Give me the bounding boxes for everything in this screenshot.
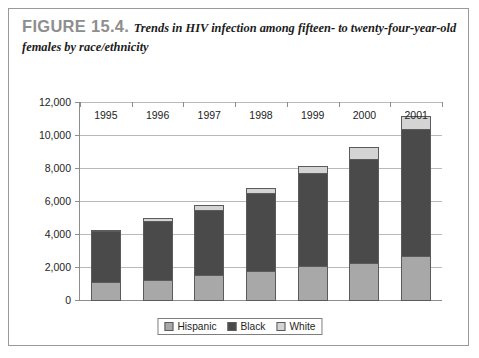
figure-caption: FIGURE 15.4. Trends in HIV infection amo…: [22, 18, 458, 56]
y-axis-tick-mark: [75, 300, 80, 301]
gridline: [80, 168, 442, 169]
y-axis-tick-mark: [75, 168, 80, 169]
bar-segment-black[interactable]: [143, 221, 173, 280]
bar-segment-hispanic[interactable]: [298, 266, 328, 301]
bar-stack: [349, 147, 379, 300]
legend-swatch-white: [276, 322, 285, 331]
y-axis-tick-label: 0: [65, 294, 71, 306]
chart-legend: HispanicBlackWhite: [157, 318, 322, 335]
x-axis-tick-label-2001: 2001: [404, 109, 427, 121]
x-axis-tick-mark: [390, 102, 391, 107]
figure-number-label: FIGURE 15.4.: [22, 17, 129, 35]
legend-label-white: White: [289, 321, 315, 332]
x-axis-tick-mark: [132, 102, 133, 107]
legend-label-black: Black: [241, 321, 266, 332]
x-axis-tick-mark: [235, 102, 236, 107]
x-axis-tick-label-2000: 2000: [353, 109, 376, 121]
bar-segment-hispanic[interactable]: [194, 275, 224, 301]
bar-segment-black[interactable]: [91, 231, 121, 283]
legend-swatch-black: [228, 322, 237, 331]
gridline: [80, 135, 442, 136]
x-axis-tick-mark: [183, 102, 184, 107]
y-axis-tick-label: 12,000: [39, 96, 71, 108]
y-axis-tick-mark: [75, 234, 80, 235]
bar-stack: [143, 218, 173, 300]
x-axis-tick-mark: [80, 102, 81, 107]
legend-item-hispanic[interactable]: Hispanic: [164, 321, 216, 332]
legend-item-black[interactable]: Black: [228, 321, 266, 332]
y-axis-tick-label: 2,000: [45, 261, 71, 273]
bar-stack: [401, 116, 431, 300]
bar-segment-black[interactable]: [246, 193, 276, 272]
bar-segment-black[interactable]: [349, 159, 379, 264]
bar-segment-black[interactable]: [194, 210, 224, 277]
bar-segment-hispanic[interactable]: [246, 271, 276, 301]
x-axis-tick-label-1995: 1995: [94, 109, 117, 121]
y-axis-tick-mark: [75, 135, 80, 136]
bar-stack: [246, 188, 276, 300]
bar-segment-black[interactable]: [298, 173, 328, 267]
y-axis-tick-label: 4,000: [45, 228, 71, 240]
bar-segment-hispanic[interactable]: [91, 282, 121, 301]
x-axis-tick-mark: [287, 102, 288, 107]
bar-stack: [298, 166, 328, 300]
legend-swatch-hispanic: [164, 322, 173, 331]
legend-item-white[interactable]: White: [276, 321, 315, 332]
y-axis-tick-label: 8,000: [45, 162, 71, 174]
plot-frame: 02,0004,0006,0008,00010,00012,000 199519…: [79, 102, 442, 301]
x-axis-tick-label-1996: 1996: [146, 109, 169, 121]
x-axis-tick-label-1997: 1997: [198, 109, 221, 121]
x-axis-tick-label-1998: 1998: [249, 109, 272, 121]
x-axis-tick-label-1999: 1999: [301, 109, 324, 121]
y-axis-tick-mark: [75, 267, 80, 268]
bar-segment-hispanic[interactable]: [349, 263, 379, 301]
y-axis-tick-mark: [75, 201, 80, 202]
legend-label-hispanic: Hispanic: [177, 321, 216, 332]
gridline: [80, 102, 442, 103]
x-axis-tick-mark: [442, 102, 443, 107]
bar-stack: [194, 205, 224, 300]
bar-stack: [91, 230, 121, 300]
y-axis-tick-label: 6,000: [45, 195, 71, 207]
bar-segment-hispanic[interactable]: [143, 280, 173, 301]
y-axis-tick-label: 10,000: [39, 129, 71, 141]
chart-area: 02,0004,0006,0008,00010,00012,000 199519…: [22, 89, 458, 337]
bar-segment-hispanic[interactable]: [401, 256, 431, 301]
figure-card: FIGURE 15.4. Trends in HIV infection amo…: [8, 8, 469, 346]
bar-segment-black[interactable]: [401, 129, 431, 258]
x-axis-tick-mark: [339, 102, 340, 107]
